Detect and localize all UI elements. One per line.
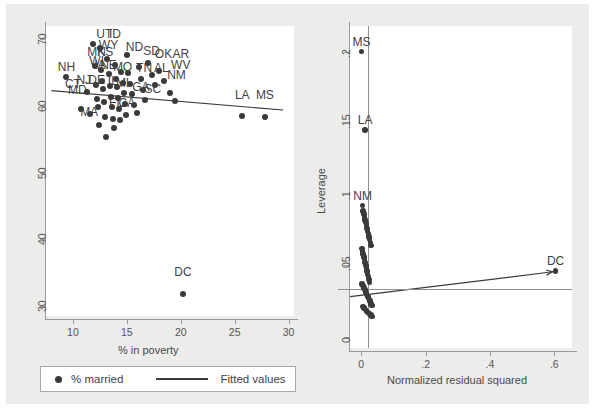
left-x-tick: [127, 319, 128, 324]
left-x-tick-label: 15: [121, 326, 133, 338]
left-y-tick-label: 30: [36, 300, 48, 312]
left-data-point: [102, 114, 108, 120]
legend-line-icon: [156, 378, 208, 380]
right-point-label: DC: [547, 255, 564, 267]
left-data-point: [180, 291, 186, 297]
left-point-label: ND: [126, 41, 143, 53]
left-point-label: DE: [88, 74, 105, 86]
left-point-label: MS: [256, 89, 274, 101]
left-point-label: MO: [113, 61, 132, 73]
right-x-axis-title: Normalized residual squared: [387, 374, 527, 386]
left-y-tick-label: 50: [36, 167, 48, 179]
right-plot-area: [350, 26, 572, 348]
right-data-point: [369, 303, 375, 309]
right-x-axis-line: [349, 351, 577, 352]
right-y-axis-title: Leverage: [315, 168, 327, 214]
right-y-tick-label: .2: [340, 49, 352, 58]
left-point-label: NM: [167, 69, 186, 81]
left-y-tick-label: 70: [36, 34, 48, 46]
right-x-tick-label: .4: [486, 358, 495, 370]
left-data-point: [167, 90, 173, 96]
legend-line-label: Fitted values: [220, 373, 285, 385]
left-point-label: CA: [119, 97, 136, 109]
right-data-point: [553, 268, 559, 274]
left-data-point: [94, 96, 100, 102]
right-panel: Normalized residual squared Leverage 0.2…: [303, 4, 589, 404]
left-x-tick-label: 30: [283, 326, 295, 338]
left-x-axis-line: [45, 319, 298, 320]
left-data-point: [134, 110, 140, 116]
right-point-label: LA: [358, 114, 373, 126]
left-panel: % in poverty % married Fitted values 101…: [6, 4, 303, 404]
left-x-tick-label: 25: [229, 326, 241, 338]
left-y-tick-label: 60: [36, 100, 48, 112]
left-point-label: TN: [136, 62, 152, 74]
left-x-tick-label: 10: [67, 326, 79, 338]
left-x-tick: [73, 319, 74, 324]
right-point-label: MS: [353, 36, 371, 48]
right-x-tick: [490, 351, 491, 356]
left-data-point: [111, 125, 117, 131]
left-point-label: OK: [155, 48, 172, 60]
left-point-label: LA: [235, 89, 250, 101]
left-x-tick: [289, 319, 290, 324]
left-x-tick: [235, 319, 236, 324]
right-x-tick-label: .2: [421, 358, 430, 370]
left-x-axis-title: % in poverty: [118, 344, 179, 356]
right-point-label: NM: [353, 190, 372, 202]
left-point-label: MA: [80, 106, 98, 118]
left-data-point: [96, 122, 102, 128]
right-data-point: [368, 243, 374, 249]
legend-marker-icon: [55, 376, 62, 383]
left-point-label: MI: [116, 77, 129, 89]
right-y-tick-label: .15: [340, 114, 352, 129]
right-y-tick-label: .1: [340, 191, 352, 200]
figure-page: % in poverty % married Fitted values 101…: [0, 0, 595, 410]
right-x-tick: [426, 351, 427, 356]
left-point-label: SC: [144, 83, 161, 95]
right-x-tick-label: .6: [550, 358, 559, 370]
right-x-tick-label: 0: [358, 358, 364, 370]
right-x-tick: [361, 351, 362, 356]
right-data-point: [362, 127, 368, 133]
right-y-axis-line: [349, 22, 350, 352]
right-x-tick: [554, 351, 555, 356]
legend-marker-label: % married: [71, 373, 123, 385]
left-x-tick: [181, 319, 182, 324]
right-horizontal-reference-line: [338, 289, 572, 290]
left-point-label: NH: [58, 61, 75, 73]
right-y-tick-label: .05: [340, 257, 352, 272]
left-x-tick-label: 20: [175, 326, 187, 338]
chart-legend: % married Fitted values: [40, 366, 296, 392]
right-y-tick-label: 0: [340, 337, 352, 343]
left-data-point: [161, 78, 167, 84]
left-point-label: DC: [174, 266, 191, 278]
left-point-label: MD: [68, 84, 87, 96]
left-y-tick-label: 40: [36, 234, 48, 246]
